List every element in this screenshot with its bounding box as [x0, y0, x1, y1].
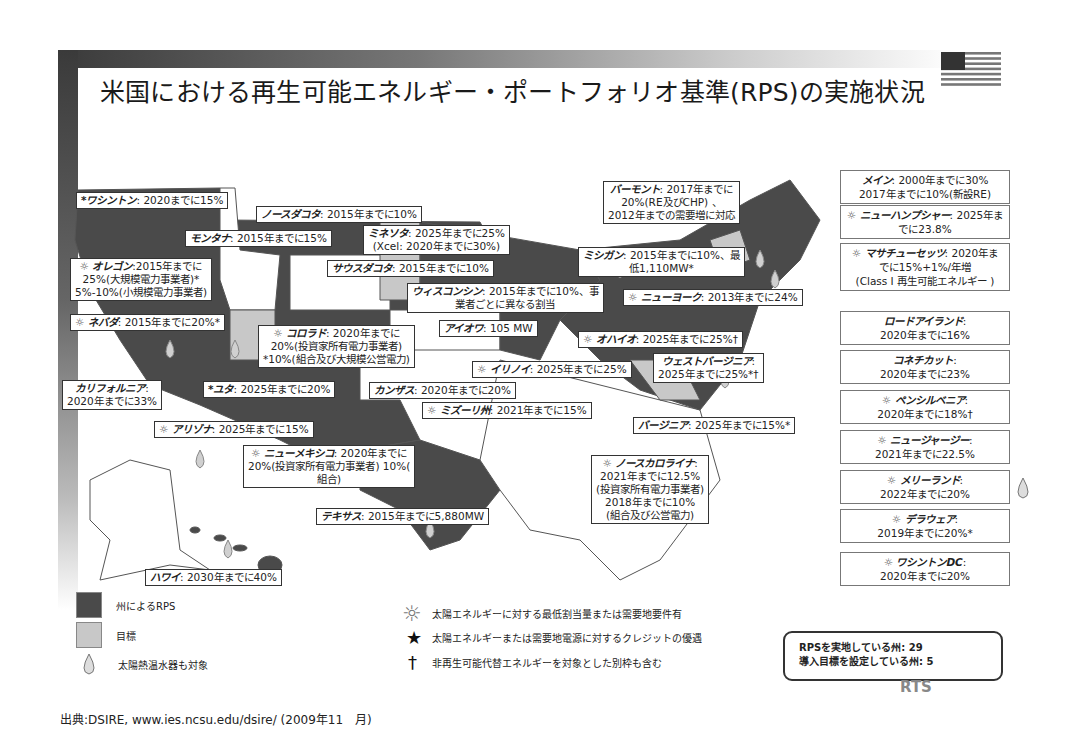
- sun-icon: ☼: [877, 434, 890, 446]
- state-label-minnesota: ミネソタ: 2025年までに25%(Xcel: 2020年までに30%): [363, 225, 510, 255]
- state-target: : 2000年までに30%: [892, 174, 989, 186]
- drop-icon: [1015, 477, 1031, 499]
- state-name: オレゴン: [92, 260, 132, 272]
- drop-icon: [80, 652, 98, 676]
- sun-icon: ☼: [75, 316, 88, 328]
- state-name: バージニア: [638, 419, 688, 431]
- state-label-wisconsin: ウィスコンシン: 2015年までに10%、事業者ごとに異なる割当: [407, 283, 604, 313]
- state-label-pennsylvania: ☼ ペンシルベニア:2020年までに18%†: [840, 390, 1010, 424]
- state-label-iowa: アイオワ: 105 MW: [439, 320, 538, 337]
- state-target-detail: 2025年までに25%*†: [658, 368, 759, 381]
- state-label-maine: メイン: 2000年までに30%2017年までに10%(新設RE): [840, 170, 1010, 204]
- page-title: 米国における再生可能エネルギー・ポートフォリオ基準(RPS)の実施状況: [100, 72, 925, 108]
- state-label-michigan: ミシガン: 2015年までに10%、最低1,110MW*: [578, 247, 745, 277]
- state-name: コネチカット: [893, 354, 953, 366]
- sun-icon: ☼: [477, 363, 490, 375]
- state-target-detail: (Xcel: 2020年までに30%): [368, 240, 505, 253]
- sun-icon: ☼: [402, 601, 432, 626]
- state-target-detail: 20%(投資家所有電力事業者) 10%(: [248, 460, 410, 473]
- state-name: カリフォルニア: [75, 382, 145, 394]
- state-label-west-virginia: ウェストバージニア:2025年までに25%*†: [653, 353, 764, 383]
- state-name: アイオワ: [444, 322, 483, 334]
- state-label-utah: *ユタ: 2025年までに20%: [203, 381, 335, 398]
- state-target: : 2015年までに10%、最: [623, 249, 740, 261]
- state-target-detail: 低1,110MW*: [583, 262, 740, 275]
- state-target-detail: (Class I 再生可能エネルギー ): [843, 274, 1007, 288]
- header-frame-top: [58, 50, 958, 68]
- summary-box: RPSを実地している州: 29 導入目標を設定している州: 5: [783, 631, 1003, 681]
- sun-icon: ☼: [583, 333, 596, 345]
- state-name: オハイオ: [596, 333, 636, 345]
- state-name: ワシントンDC: [896, 556, 962, 568]
- state-label-arizona: ☼ アリゾナ: 2025年までに15%: [154, 421, 314, 438]
- state-target: : 2025年までに25%: [530, 363, 627, 375]
- state-target: : 2015年までに10%: [392, 262, 489, 274]
- state-alaska: [90, 460, 210, 580]
- state-target-detail: 2020年までに16%: [843, 328, 1007, 342]
- legend-dagger: † 非再生可能代替エネルギーを対象とした別枠も含む: [408, 652, 662, 673]
- state-label-virginia: バージニア: 2025年までに15%*: [633, 417, 795, 434]
- state-target: : 2020年までに: [326, 327, 400, 339]
- legend-goal: 目標: [76, 622, 136, 648]
- state-target: :2015年までに: [132, 260, 202, 272]
- state-label-nevada: ☼ ネバダ: 2015年までに20%*: [70, 314, 225, 331]
- state-target: : 2025年までに25%: [408, 227, 505, 239]
- goal-states-count: 5: [926, 656, 933, 667]
- state-target: : 2017年までに: [660, 183, 734, 195]
- state-target: : 2015年までに10%、事: [482, 285, 599, 297]
- state-target: : 2020までに15%: [137, 194, 224, 206]
- legend-solar-water-heater: 太陽熱温水器も対象: [80, 652, 208, 676]
- state-label-north-dakota: ノースダコタ: 2015年までに10%: [256, 206, 422, 223]
- state-name: ネバダ: [88, 316, 118, 328]
- state-label-illinois: ☼ イリノイ: 2025年までに25%: [472, 361, 632, 378]
- state-name: ペンシルベニア: [895, 394, 965, 406]
- state-label-new-jersey: ☼ ニュージャージー:2021年までに22.5%: [840, 430, 1010, 464]
- state-target-detail: 25%(大規模電力事業者)*: [75, 273, 207, 286]
- state-name: イリノイ: [490, 363, 530, 375]
- state-target-detail: 20%(投資家所有電力事業者): [263, 340, 410, 353]
- sun-icon: ☼: [852, 247, 865, 259]
- state-label-colorado: ☼ コロラド: 2020年までに20%(投資家所有電力事業者)*10%(組合及び…: [258, 325, 415, 368]
- source-citation: 出典:DSIRE, www.ies.ncsu.edu/dsire/ (2009年…: [60, 710, 372, 727]
- state-label-new-mexico: ☼ ニューメキシコ: 2020年までに20%(投資家所有電力事業者) 10%(組…: [243, 445, 415, 488]
- state-label-connecticut: コネチカット:2020年までに23%: [840, 350, 1010, 384]
- state-target-detail: (投資家所有電力事業者): [596, 483, 704, 496]
- state-target-detail: 業者ごとに異なる割当: [412, 298, 599, 311]
- state-name: コロラド: [286, 327, 326, 339]
- state-label-new-hampshire: ☼ ニューハンプシャー: 2025年までに23.8%: [840, 205, 1010, 239]
- state-target-detail: 5%-10%(小規模電力事業者): [75, 286, 207, 299]
- state-label-california: カリフォルニア:2020年までに33%: [62, 380, 162, 410]
- legend-state-rps: 州によるRPS: [76, 592, 175, 618]
- state-label-missouri: ☼ ミズーリ州: 2021年までに15%: [422, 402, 592, 419]
- state-label-north-carolina: ☼ ノースカロライナ:2021年までに12.5%(投資家所有電力事業者)2018…: [591, 455, 709, 524]
- state-label-washington-dc: ☼ ワシントンDC:2020年までに20%: [840, 552, 1010, 586]
- state-target: :: [145, 382, 149, 394]
- state-name: ウェストバージニア: [662, 355, 752, 367]
- state-label-washington: *ワシントン: 2020までに15%: [76, 192, 228, 209]
- state-target-detail: 2021年までに12.5%: [596, 470, 704, 483]
- state-target: :: [960, 474, 964, 486]
- state-name: サウスダコタ: [332, 262, 392, 274]
- us-flag-icon: [941, 52, 1001, 86]
- state-name: *ワシントン: [81, 194, 137, 206]
- state-label-new-york: ☼ ニューヨーク: 2013年までに24%: [623, 289, 803, 306]
- sun-icon: ☼: [251, 447, 264, 459]
- drop-icon: [196, 450, 204, 468]
- sun-icon: ☼: [847, 209, 860, 221]
- drop-icon: [224, 540, 232, 558]
- state-name: カンザス: [374, 384, 414, 396]
- state-target: : 2020年までに20%: [414, 384, 511, 396]
- state-name: ミズーリ州: [440, 404, 490, 416]
- state-target: : 2015年までに20%*: [118, 316, 220, 328]
- state-label-maryland: ☼ メリーランド:2022年までに20%: [840, 470, 1010, 504]
- state-target-detail: 2020年までに23%: [843, 367, 1007, 381]
- state-label-kansas: カンザス: 2020年までに20%: [369, 382, 516, 399]
- state-target: : 2020年までに: [334, 447, 408, 459]
- state-target: :: [969, 434, 973, 446]
- sun-icon: ☼: [628, 291, 641, 303]
- state-name: テキサス: [321, 510, 361, 522]
- state-target: :: [752, 355, 756, 367]
- state-name: ニューハンプシャー: [860, 209, 950, 221]
- state-target: :: [955, 513, 959, 525]
- state-target-detail: でに15%+1%/年増: [843, 260, 1007, 274]
